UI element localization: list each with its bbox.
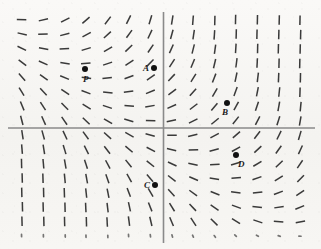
slope-segment <box>235 73 237 82</box>
slope-segment <box>211 118 218 124</box>
slope-segment <box>252 207 261 208</box>
slope-segment <box>211 103 217 110</box>
slope-segment <box>127 188 130 197</box>
slope-segment <box>124 106 133 107</box>
slope-segment <box>189 177 198 181</box>
slope-segment <box>274 191 283 194</box>
slope-segment <box>125 146 132 152</box>
slope-segment <box>279 87 280 96</box>
point-label-c: C <box>144 181 150 190</box>
slope-segment <box>20 102 24 111</box>
slope-segment <box>252 177 261 180</box>
point-marker-c <box>152 182 158 188</box>
slope-segment <box>253 192 262 193</box>
slope-segment <box>296 221 305 223</box>
slope-segment <box>60 62 69 64</box>
slope-segment <box>127 174 132 182</box>
slope-segment <box>104 132 111 138</box>
slope-segment <box>212 74 215 83</box>
slope-segment <box>39 61 48 65</box>
slope-segment <box>126 15 130 23</box>
slope-segment <box>295 206 304 210</box>
slope-segment <box>189 190 197 196</box>
slope-segment <box>126 160 132 167</box>
slope-segment <box>257 87 259 96</box>
point-label-a: A <box>143 64 149 73</box>
slope-segment <box>296 190 304 195</box>
slope-segment <box>42 130 45 139</box>
slope-segment <box>214 59 216 68</box>
slope-segment <box>84 146 88 155</box>
slope-segment <box>104 32 111 38</box>
slope-segment <box>19 60 27 66</box>
slope-segment <box>169 59 174 67</box>
slope-segment <box>83 104 91 109</box>
slope-segment <box>278 236 280 237</box>
slope-segment <box>235 235 237 237</box>
slope-segment <box>22 144 23 153</box>
slope-segment <box>168 189 174 196</box>
slope-segment <box>148 203 152 212</box>
slope-segment <box>103 92 112 93</box>
slope-segment <box>169 44 173 53</box>
slope-segment <box>43 145 45 154</box>
slope-segment <box>147 161 154 167</box>
slope-segment <box>106 160 110 168</box>
slope-segment <box>19 74 25 81</box>
slope-segment <box>40 88 47 95</box>
slope-segment <box>82 32 90 37</box>
slope-segment <box>104 146 110 154</box>
slope-segment <box>167 149 176 151</box>
slope-segment <box>125 76 134 79</box>
slope-segment <box>254 131 260 139</box>
slope-segment <box>43 159 44 168</box>
slope-segment <box>233 132 240 138</box>
slope-segment <box>210 133 218 137</box>
slope-segment <box>63 131 67 140</box>
slope-segment <box>193 235 194 237</box>
slope-segment <box>254 146 261 152</box>
slope-segment <box>188 163 197 165</box>
slope-segment <box>275 176 283 181</box>
direction-field-canvas <box>0 0 321 249</box>
slope-segment <box>236 58 237 67</box>
slope-segment <box>107 203 108 212</box>
axes-group <box>8 12 315 243</box>
slope-segment <box>231 192 240 193</box>
slope-segment <box>148 45 153 53</box>
slope-segment <box>125 45 132 52</box>
slope-segment <box>60 33 69 35</box>
slope-segment <box>168 162 177 166</box>
slope-segment <box>39 48 48 50</box>
slope-segment <box>190 104 198 110</box>
slope-segment <box>167 120 176 122</box>
slope-segment <box>83 132 89 140</box>
slope-segment <box>167 104 176 108</box>
slope-segment <box>171 15 173 24</box>
slope-segment <box>274 221 283 222</box>
slope-segment <box>106 174 109 183</box>
slope-segment <box>211 191 220 195</box>
point-marker-b <box>224 100 230 106</box>
slope-segments-group <box>17 15 305 238</box>
slope-segment <box>277 116 280 125</box>
slope-segment <box>63 145 66 154</box>
slope-segment <box>86 174 88 183</box>
point-marker-d <box>233 152 239 158</box>
slope-segment <box>278 102 280 111</box>
slope-segment <box>107 189 109 198</box>
slope-segment <box>299 116 301 125</box>
slope-segment <box>62 117 67 125</box>
slope-segment <box>298 131 301 140</box>
slope-segment <box>149 15 152 24</box>
slope-segment <box>64 174 65 183</box>
slope-segment <box>190 204 197 211</box>
slope-segment <box>147 147 155 151</box>
slope-segment <box>145 105 154 107</box>
slope-segment <box>297 175 304 182</box>
slope-segment <box>19 88 24 96</box>
slope-segment <box>105 17 111 25</box>
slope-segment <box>61 89 69 94</box>
slope-segment <box>255 116 259 124</box>
slope-segment <box>128 202 130 211</box>
